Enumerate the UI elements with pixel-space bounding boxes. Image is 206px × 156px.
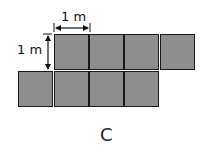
vertical-dimension-label: 1 m	[17, 42, 42, 57]
horizontal-dimension-label: 1 m	[61, 9, 86, 24]
figure-caption: C	[100, 124, 113, 145]
